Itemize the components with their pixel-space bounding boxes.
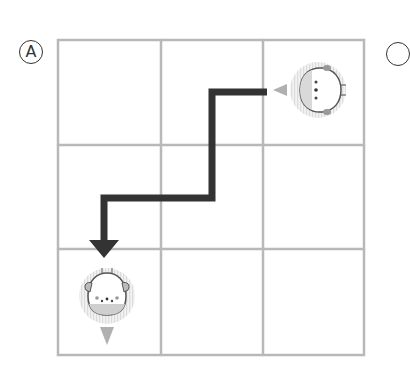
bear-character-icon xyxy=(79,268,135,345)
path-arrow xyxy=(89,92,267,258)
pointer-left-icon xyxy=(273,84,287,96)
pointer-down-icon xyxy=(100,327,114,345)
bird-character-icon xyxy=(273,62,346,118)
